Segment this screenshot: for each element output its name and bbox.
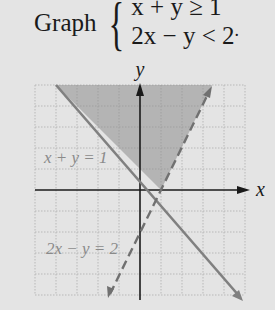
line2-label: 2x − y = 2: [46, 239, 119, 258]
x-axis-label: x: [255, 178, 265, 200]
y-axis-label: y: [134, 58, 145, 81]
graph: y x x + y = 1 2x − y = 2: [0, 0, 275, 310]
x-axis-arrow-icon: [237, 186, 250, 194]
line1-label: x + y = 1: [43, 148, 108, 167]
